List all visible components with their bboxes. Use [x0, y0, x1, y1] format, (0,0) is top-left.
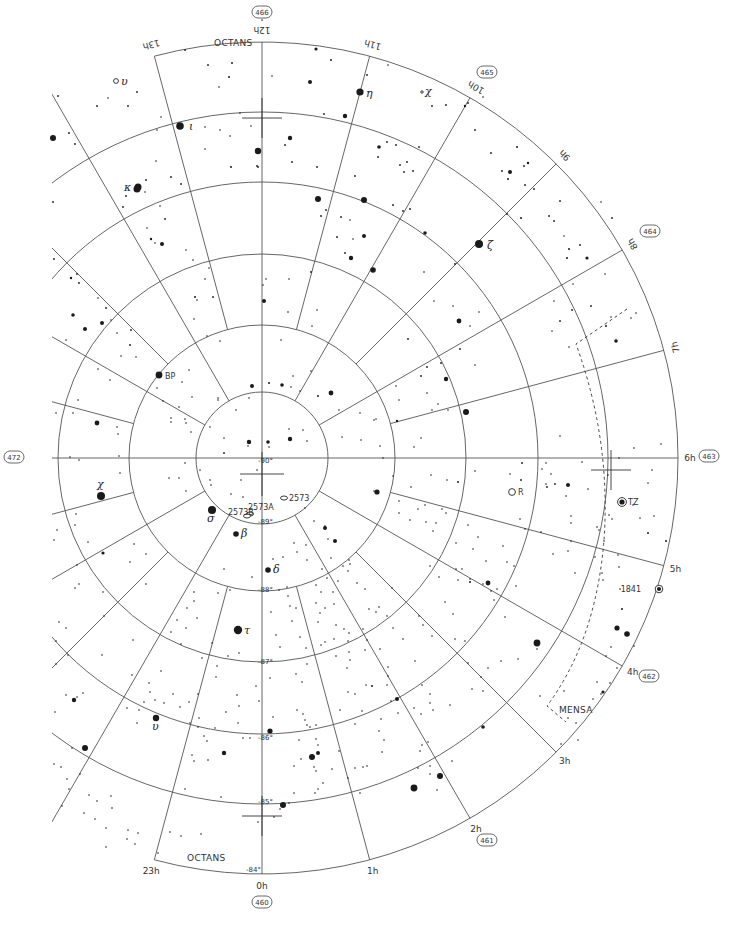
- star-field: [50, 19, 667, 854]
- star: [455, 568, 457, 570]
- star: [334, 540, 336, 542]
- svg-text:463: 463: [702, 453, 715, 461]
- star: [207, 759, 209, 761]
- star: [319, 612, 321, 614]
- star: [609, 682, 611, 684]
- star: [585, 256, 588, 259]
- star: [395, 144, 397, 146]
- star: [509, 473, 511, 475]
- star: [660, 443, 662, 445]
- adjacent-chart-ref[interactable]: 462: [639, 670, 659, 682]
- star: [76, 564, 78, 566]
- star: [581, 461, 583, 463]
- star: [457, 319, 462, 324]
- star: [524, 184, 526, 186]
- named-star: 1841: [621, 585, 663, 594]
- adjacent-chart-ref[interactable]: 465: [477, 66, 497, 78]
- star: [231, 62, 233, 64]
- star: [288, 802, 290, 804]
- star: [508, 170, 512, 174]
- star: [349, 219, 351, 221]
- star: [148, 682, 150, 684]
- star: [520, 479, 522, 481]
- star: [127, 829, 129, 831]
- star: [325, 209, 327, 211]
- star: [170, 421, 172, 423]
- star: [330, 59, 332, 61]
- star: [346, 667, 348, 669]
- adjacent-chart-ref[interactable]: 472: [4, 451, 24, 463]
- star: [120, 355, 122, 357]
- star: [349, 563, 351, 565]
- star: [546, 486, 548, 488]
- star: [474, 470, 476, 472]
- adjacent-chart-ref[interactable]: 460: [252, 896, 272, 908]
- star: [65, 694, 67, 696]
- star: [309, 726, 311, 728]
- star: [299, 636, 301, 638]
- star: [168, 477, 170, 479]
- star: [61, 805, 63, 807]
- star: [398, 500, 400, 502]
- star: [240, 479, 242, 481]
- star: [310, 271, 312, 273]
- star: [366, 639, 368, 641]
- star: [126, 838, 128, 840]
- star: [437, 773, 443, 779]
- hour-label: 13h: [142, 38, 161, 52]
- star: [295, 607, 297, 609]
- star: [500, 660, 502, 662]
- star: [454, 638, 456, 640]
- star: [223, 452, 225, 454]
- star: [610, 316, 612, 318]
- adjacent-chart-ref[interactable]: 461: [477, 834, 497, 846]
- star: [398, 512, 400, 514]
- star: [430, 474, 432, 476]
- star: [315, 724, 317, 726]
- star: [188, 701, 190, 703]
- adjacent-chart-ref[interactable]: 463: [699, 450, 719, 462]
- star: [75, 513, 77, 515]
- star: [604, 273, 606, 275]
- star: [170, 417, 172, 419]
- svg-text:R: R: [518, 488, 524, 497]
- star: [211, 642, 213, 644]
- star: [421, 744, 423, 746]
- star: [333, 638, 335, 640]
- star: [375, 418, 377, 420]
- star: [150, 238, 152, 240]
- star: [268, 382, 270, 384]
- star: [548, 215, 550, 217]
- star: [618, 457, 620, 459]
- adjacent-chart-ref[interactable]: 466: [252, 6, 272, 18]
- star: [185, 490, 187, 492]
- star: [77, 399, 79, 401]
- star: [316, 166, 318, 168]
- star: [257, 821, 259, 823]
- star: [421, 684, 423, 686]
- star: [265, 278, 267, 280]
- star: [387, 64, 389, 66]
- star: [417, 767, 419, 769]
- star: [618, 566, 620, 568]
- star: [590, 305, 592, 307]
- star: [390, 700, 392, 702]
- star: [193, 318, 195, 320]
- star: [407, 338, 409, 340]
- star: [96, 800, 98, 802]
- star: [406, 161, 408, 163]
- star: [570, 522, 572, 524]
- star: [647, 532, 649, 534]
- star: [94, 818, 96, 820]
- star: [162, 400, 164, 402]
- adjacent-chart-ref[interactable]: 464: [640, 225, 660, 237]
- star: [321, 568, 323, 570]
- star: [392, 475, 394, 477]
- named-star: σ: [207, 506, 216, 525]
- star: [97, 368, 99, 370]
- star: [67, 654, 69, 656]
- star: [362, 234, 366, 238]
- star: [97, 297, 99, 299]
- star: [502, 545, 504, 547]
- star: [356, 582, 358, 584]
